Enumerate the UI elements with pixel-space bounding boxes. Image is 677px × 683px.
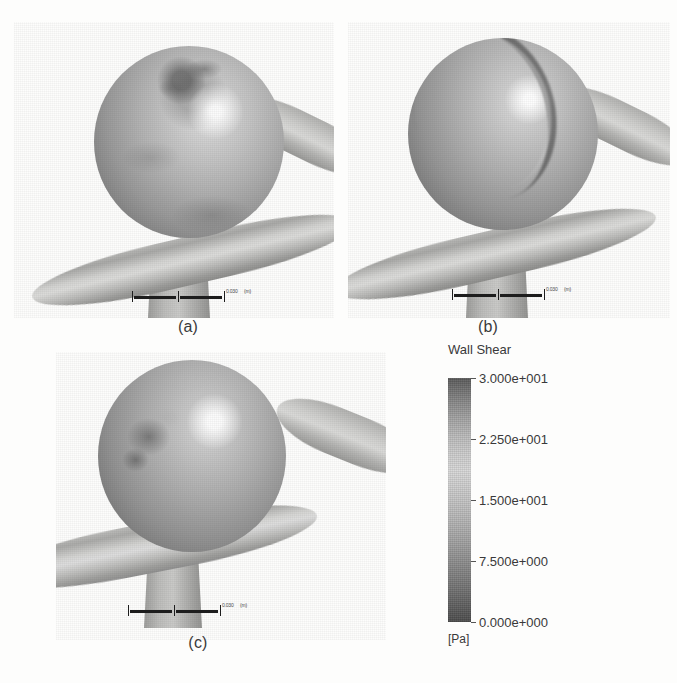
colorbar-tick-4: [471, 622, 476, 623]
panel-b-scene: 0.030 (m): [348, 22, 670, 318]
distal-vessel-segment-c: [268, 386, 386, 487]
aneurysm-dome-b: [408, 38, 598, 230]
figure-root: 0.030 (m) (a): [0, 0, 677, 683]
panel-c-scale-ruler: 0.030 (m): [128, 604, 244, 618]
panel-a-ruler-max: 0.030: [226, 288, 238, 294]
panel-c-ruler-max: 0.030: [222, 602, 234, 608]
panel-a-label: (a): [158, 318, 218, 336]
panel-a: 0.030 (m): [14, 22, 334, 318]
panel-a-ruler-unit: (m): [244, 288, 251, 294]
colorbar-label-3: 7.500e+000: [479, 554, 548, 569]
wall-shear-legend: Wall Shear 3.000e+001 2.250e+001 1.500e+…: [440, 340, 640, 660]
colorbar-label-1: 2.250e+001: [479, 432, 548, 447]
colorbar-label-4: 0.000e+000: [479, 615, 548, 630]
colorbar-tick-0: [471, 378, 476, 379]
colorbar-tick-3: [471, 561, 476, 562]
panel-a-scale-ruler: 0.030 (m): [132, 290, 248, 304]
panel-b-ruler-unit: (m): [564, 286, 571, 292]
panel-b-scale-ruler: 0.030 (m): [452, 288, 568, 302]
panel-b: 0.030 (m): [348, 22, 670, 318]
colorbar-tick-2: [471, 500, 476, 501]
colorbar-label-0: 3.000e+001: [479, 371, 548, 386]
colorbar-tick-1: [471, 439, 476, 440]
colorbar: [448, 378, 471, 622]
aneurysm-dome: [94, 46, 284, 238]
panel-c-label: (c): [168, 634, 228, 652]
panel-c-scene: 0.030 (m): [56, 352, 386, 640]
panel-c-ruler-unit: (m): [240, 602, 247, 608]
panel-b-ruler-max: 0.030: [546, 286, 558, 292]
legend-title: Wall Shear: [448, 342, 511, 357]
panel-a-scene: 0.030 (m): [14, 22, 334, 318]
colorbar-halftone: [448, 378, 471, 622]
legend-units: [Pa]: [448, 632, 469, 646]
panel-c: 0.030 (m): [56, 352, 386, 640]
panel-b-label: (b): [458, 318, 518, 336]
colorbar-label-2: 1.500e+001: [479, 493, 548, 508]
aneurysm-dome-c: [98, 360, 286, 552]
